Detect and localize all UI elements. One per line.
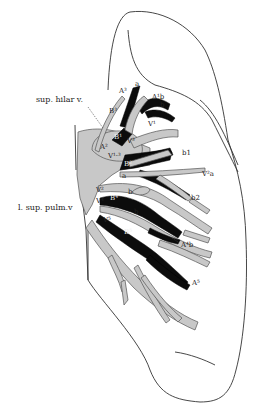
label-v2: V²	[95, 186, 104, 194]
label-v1: V¹	[147, 120, 156, 128]
label-l-sup-pulm-v: l. sup. pulm.v	[18, 203, 73, 212]
label-b1-small: b1	[182, 149, 191, 157]
lower-inner-line	[175, 352, 215, 365]
label-a2: A²	[99, 143, 108, 151]
label-b4: B⁴	[110, 194, 118, 202]
label-b5: B⁵	[124, 228, 132, 236]
label-v5: V⁵	[102, 216, 111, 224]
label-a1b-b: b	[160, 101, 165, 109]
label-a3-a: a	[135, 80, 139, 88]
leader-sup-hilar-v	[88, 107, 103, 128]
label-sup-hilar-v: sup. hilar v.	[36, 95, 83, 104]
vein-v1	[130, 129, 178, 148]
label-v4: V⁴	[95, 197, 104, 205]
label-v13: V¹·³	[107, 152, 121, 160]
label-a4b: A⁴b	[180, 241, 194, 249]
label-a-small: a	[122, 172, 126, 180]
lung-illustration: sup. hilar v. l. sup. pulm.v A³ a A¹b b …	[0, 0, 271, 413]
label-b-mid: b	[128, 188, 133, 196]
label-v3: V³	[126, 137, 135, 145]
label-b1: B¹	[114, 133, 122, 141]
label-a1b: A¹b	[151, 93, 165, 101]
label-b2-small: b2	[191, 194, 200, 202]
label-a3: A³	[118, 87, 127, 95]
vein-lower-branch-4	[121, 280, 128, 305]
lung-diagram: sup. hilar v. l. sup. pulm.v A³ a A¹b b …	[0, 0, 271, 413]
label-a5: A⁵	[191, 279, 200, 287]
label-b-mid2: b	[134, 208, 139, 216]
label-b2-upper: B²	[124, 160, 132, 168]
artery-a5	[146, 255, 190, 290]
label-b3: B³	[109, 107, 117, 115]
vein-v2a	[120, 168, 205, 177]
label-v2a: V²a	[201, 170, 214, 178]
